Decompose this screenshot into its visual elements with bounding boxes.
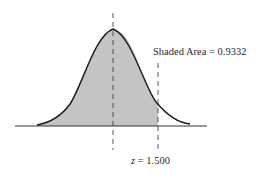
shaded-area-label: Shaded Area = 0.9332 xyxy=(153,46,246,57)
normal-curve-chart xyxy=(0,0,270,181)
z-value-label: z = 1.500 xyxy=(131,155,170,166)
shaded-area xyxy=(37,29,158,126)
z-value: = 1.500 xyxy=(135,155,170,166)
